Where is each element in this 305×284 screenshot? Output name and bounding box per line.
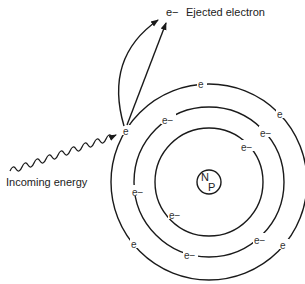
electron: e−: [254, 235, 266, 246]
incoming-energy-wave: [10, 135, 116, 171]
incoming-energy-label: Incoming energy: [6, 176, 88, 188]
ejection-arrow-straight: [127, 23, 166, 125]
nucleus-proton-label: P: [208, 181, 215, 193]
electron: e−: [132, 187, 144, 198]
electron: e: [131, 239, 137, 250]
electron: e−: [162, 115, 174, 126]
electron: e: [280, 240, 286, 251]
excited-electron: e: [123, 126, 129, 137]
electron: e: [277, 109, 283, 120]
ejected-electron-symbol: e−: [166, 6, 179, 18]
electron: e: [198, 79, 204, 90]
electron: e−: [169, 210, 181, 221]
electron: e−: [260, 128, 272, 139]
electron: e−: [241, 142, 253, 153]
ejected-electron-label: Ejected electron: [186, 6, 265, 18]
atom-diagram: N P e e e e e− e− e− e− e− e− e− e e− Ej…: [0, 0, 305, 284]
electron: e−: [184, 250, 196, 261]
ejection-arrow-curved: [118, 20, 158, 126]
outer-electrons: e e e e: [130, 78, 289, 251]
